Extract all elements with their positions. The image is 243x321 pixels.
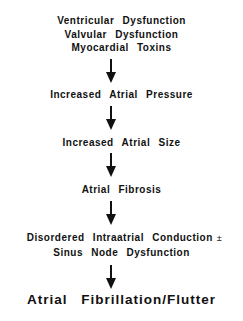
node-fibrosis: Atrial Fibrosis: [0, 183, 243, 197]
node-line: Increased Atrial Pressure: [0, 88, 243, 102]
arrow-down-icon: [106, 153, 116, 177]
node-line: Increased Atrial Size: [0, 136, 243, 150]
node-line: Valvular Dysfunction: [0, 28, 243, 42]
arrow-down-icon: [106, 106, 116, 130]
arrow-down-icon: [106, 265, 116, 289]
node-size: Increased Atrial Size: [0, 136, 243, 150]
node-line: Sinus Node Dysfunction: [0, 246, 243, 260]
node-line: Atrial Fibrillation/Flutter: [0, 293, 243, 307]
node-line: Disordered Intraatrial Conduction: [27, 232, 213, 243]
node-outcome: Atrial Fibrillation/Flutter: [0, 293, 243, 307]
node-line: Ventricular Dysfunction: [0, 14, 243, 28]
node-pressure: Increased Atrial Pressure: [0, 88, 243, 102]
arrow-down-icon: [106, 59, 116, 83]
node-causes: Ventricular Dysfunction Valvular Dysfunc…: [0, 14, 243, 55]
plus-minus-connector: ±: [217, 233, 222, 243]
node-line: Atrial Fibrosis: [0, 183, 243, 197]
node-conduction: Disordered Intraatrial Conduction± Sinus…: [0, 231, 243, 259]
arrow-down-icon: [106, 201, 116, 225]
node-line: Myocardial Toxins: [0, 41, 243, 55]
